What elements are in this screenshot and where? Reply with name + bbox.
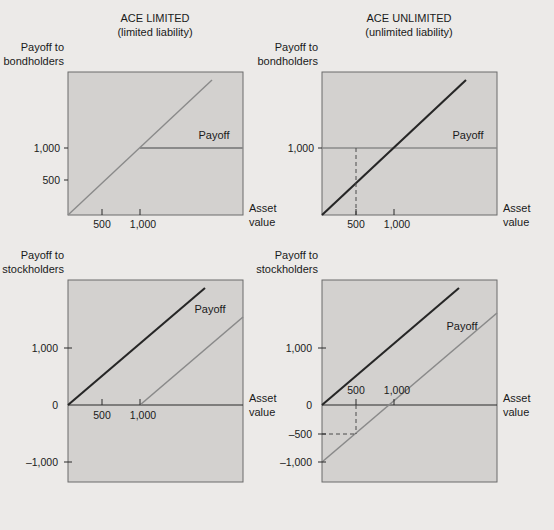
y-axis-label-line1-tl: Payoff to bbox=[21, 41, 64, 53]
x-axis-label-line1-tr: Asset bbox=[503, 202, 531, 214]
y-ticklabel-0-bl: 0 bbox=[52, 399, 58, 411]
y-ticklabel-1000-br: 1,000 bbox=[286, 342, 312, 354]
panel-subtitle-ace-unlimited: (unlimited liability) bbox=[365, 26, 452, 38]
x-ticklabel-1000-tr: 1,000 bbox=[384, 218, 410, 230]
panel-title-ace-unlimited: ACE UNLIMITED bbox=[367, 12, 452, 24]
y-ticklabel-neg1000-bl: –1,000 bbox=[26, 456, 58, 468]
x-axis-label-line1-bl: Asset bbox=[249, 392, 277, 404]
y-axis-label-line2-br: stockholders bbox=[256, 263, 318, 275]
y-axis-label-line1-br: Payoff to bbox=[275, 249, 318, 261]
y-ticklabel-1000-bl: 1,000 bbox=[32, 342, 58, 354]
series-label-payoff-br: Payoff bbox=[447, 320, 479, 332]
y-axis-label-line1-bl: Payoff to bbox=[21, 249, 64, 261]
x-axis-label-line1-br: Asset bbox=[503, 392, 531, 404]
plot-frame-tl bbox=[68, 72, 243, 215]
x-axis-label-line2-br: value bbox=[503, 406, 529, 418]
x-ticklabel-1000-bl: 1,000 bbox=[130, 409, 156, 421]
y-ticklabel-neg500-br: –500 bbox=[289, 428, 313, 440]
plot-frame-tr bbox=[322, 72, 497, 215]
series-label-payoff-tr: Payoff bbox=[453, 129, 485, 141]
series-label-payoff-bl: Payoff bbox=[195, 303, 227, 315]
x-ticklabel-500-br: 500 bbox=[347, 384, 365, 396]
x-ticklabel-1000-br: 1,000 bbox=[384, 384, 410, 396]
y-axis-label-line2-bl: stockholders bbox=[2, 263, 64, 275]
panel-subtitle-ace-limited: (limited liability) bbox=[117, 26, 192, 38]
x-ticklabel-500-tl: 500 bbox=[93, 218, 111, 230]
payoff-charts-svg: ACE LIMITED (limited liability) Payoff t… bbox=[0, 0, 554, 530]
plot-frame-br bbox=[322, 280, 497, 482]
y-ticklabel-500-tl: 500 bbox=[42, 174, 60, 186]
y-axis-label-line2-tl: bondholders bbox=[3, 55, 64, 67]
y-axis-label-line2-tr: bondholders bbox=[257, 55, 318, 67]
y-ticklabel-1000-tl: 1,000 bbox=[34, 142, 60, 154]
panel-title-ace-limited: ACE LIMITED bbox=[120, 12, 189, 24]
x-axis-label-line2-bl: value bbox=[249, 406, 275, 418]
x-ticklabel-500-bl: 500 bbox=[93, 409, 111, 421]
x-axis-label-line2-tr: value bbox=[503, 216, 529, 228]
y-axis-label-line1-tr: Payoff to bbox=[275, 41, 318, 53]
y-ticklabel-1000-tr: 1,000 bbox=[288, 142, 314, 154]
x-ticklabel-1000-tl: 1,000 bbox=[130, 218, 156, 230]
x-ticklabel-500-tr: 500 bbox=[347, 218, 365, 230]
series-label-payoff-tl: Payoff bbox=[199, 129, 231, 141]
y-ticklabel-0-br: 0 bbox=[306, 399, 312, 411]
y-ticklabel-neg1000-br: –1,000 bbox=[280, 456, 312, 468]
x-axis-label-line1-tl: Asset bbox=[249, 202, 277, 214]
payoff-diagram-figure: ACE LIMITED (limited liability) Payoff t… bbox=[0, 0, 554, 530]
x-axis-label-line2-tl: value bbox=[249, 216, 275, 228]
